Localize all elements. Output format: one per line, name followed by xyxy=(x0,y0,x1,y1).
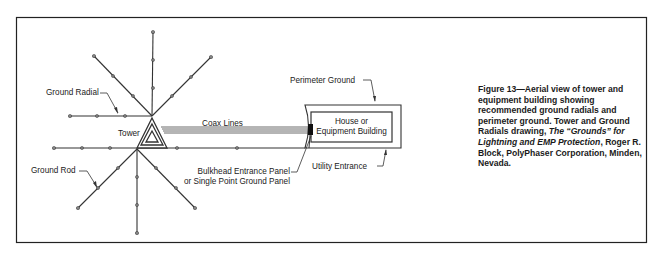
building-label-line2: Equipment Building xyxy=(316,127,387,136)
upper-radials xyxy=(69,31,213,118)
ground-radial-label: Ground Radial xyxy=(46,88,99,97)
perimeter-ground-label: Perimeter Ground xyxy=(290,76,356,85)
ground-rod-label: Ground Rod xyxy=(31,166,76,175)
tower-label: Tower xyxy=(118,129,140,138)
utility-entrance-label: Utility Entrance xyxy=(312,162,368,171)
building-label-line1: House or xyxy=(335,117,368,126)
bulkhead-label-line2: or Single Point Ground Panel xyxy=(184,177,290,186)
coax-lines-label: Coax Lines xyxy=(202,119,243,128)
lower-radials xyxy=(53,147,305,235)
bulkhead-panel xyxy=(308,124,313,135)
bulkhead-label-line1: Bulkhead Entrance Panel xyxy=(198,167,291,176)
tower-icon xyxy=(137,118,167,148)
figure-caption: Figure 13—Aerial view of tower and equip… xyxy=(478,84,648,169)
